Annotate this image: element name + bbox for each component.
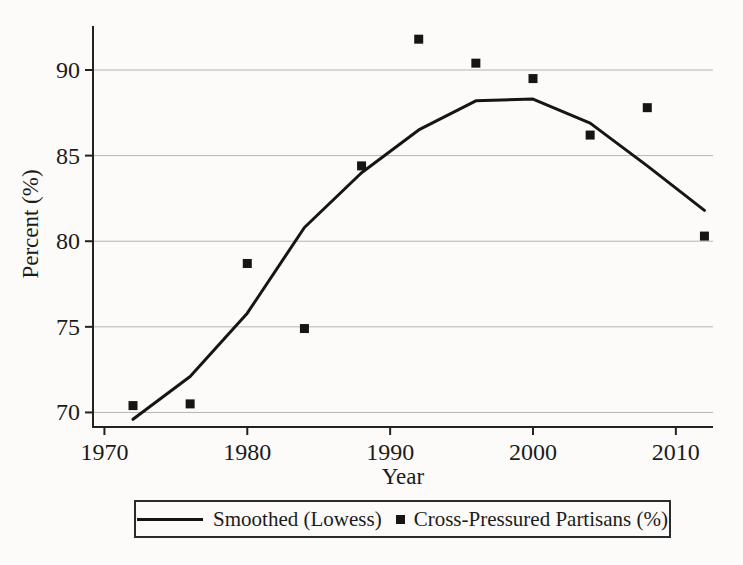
scatter-point [643,103,652,112]
legend-label-lowess: Smoothed (Lowess) [213,507,382,532]
scatter-point [414,35,423,44]
scatter-point [700,232,709,241]
svg-text:85: 85 [56,143,80,169]
svg-text:1990: 1990 [366,439,414,465]
square-marker-icon [396,515,405,524]
svg-text:2000: 2000 [509,439,557,465]
svg-text:1970: 1970 [80,439,128,465]
lowess-line [133,99,704,419]
plot-svg: 707580859019701980199020002010 [0,0,743,565]
scatter-point [129,401,138,410]
scatter-point [471,59,480,68]
figure-page: 707580859019701980199020002010 Percent (… [0,0,743,565]
scatter-point [357,161,366,170]
tick-marks [85,70,676,435]
x-axis-label: Year [382,464,424,490]
y-gridlines [93,70,713,412]
svg-text:1980: 1980 [223,439,271,465]
legend-label-partisans: Cross-Pressured Partisans (%) [414,507,668,532]
svg-text:80: 80 [56,228,80,254]
y-tick-labels: 7075808590 [56,57,80,425]
scatter-point [529,74,538,83]
lowess-line-sample-icon [137,518,203,521]
scatter-point [186,399,195,408]
axes [92,26,713,428]
svg-text:75: 75 [56,314,80,340]
svg-text:90: 90 [56,57,80,83]
svg-text:70: 70 [56,399,80,425]
y-axis-label: Percent (%) [18,169,44,278]
svg-text:2010: 2010 [652,439,700,465]
scatter-point [243,259,252,268]
scatter-point [586,131,595,140]
scatter-point [300,324,309,333]
legend: Smoothed (Lowess) Cross-Pressured Partis… [134,500,671,538]
scatter-points [129,35,709,410]
x-tick-labels: 19701980199020002010 [80,439,699,465]
